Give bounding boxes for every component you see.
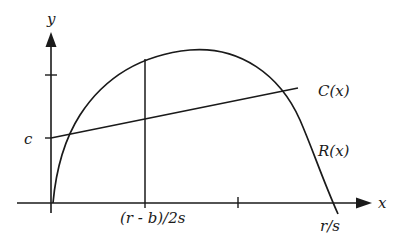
revenue-curve-label: R(x) xyxy=(317,142,350,160)
revenue-curve xyxy=(53,50,338,214)
vertex-x-label: (r - b)/2s xyxy=(120,209,186,227)
x-axis-label: x xyxy=(378,194,387,212)
intercept-label: c xyxy=(24,130,33,148)
x-axis xyxy=(17,197,372,209)
cost-line xyxy=(51,88,298,138)
root-label: r/s xyxy=(320,217,340,235)
revenue-cost-diagram: y x c C(x) R(x) (r - b)/2s r/s xyxy=(0,0,401,246)
cost-curve-label: C(x) xyxy=(318,82,350,100)
x-axis-arrow-icon xyxy=(356,198,372,209)
y-axis-label: y xyxy=(46,10,56,28)
y-axis-arrow-icon xyxy=(46,32,57,47)
